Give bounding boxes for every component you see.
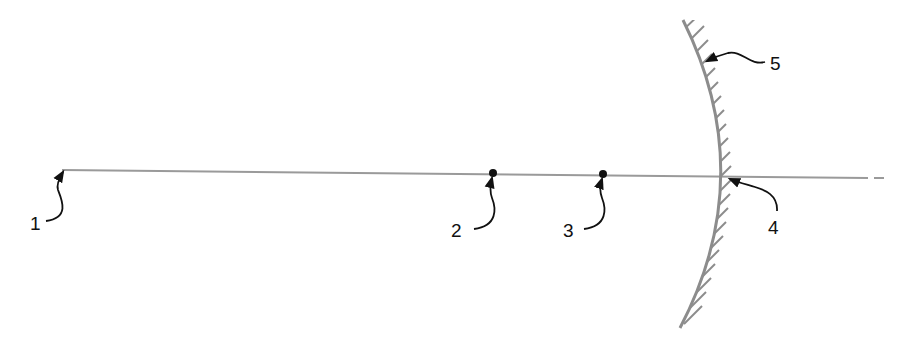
leader-arrow-4 xyxy=(730,179,777,211)
label-3: 3 xyxy=(563,220,574,241)
optics-diagram: 1 2 3 4 5 xyxy=(0,0,922,346)
optical-axis xyxy=(62,170,884,178)
point-3 xyxy=(599,170,607,178)
concave-mirror xyxy=(680,20,721,328)
label-4: 4 xyxy=(768,217,779,238)
leader-arrow-2 xyxy=(474,178,494,229)
label-2: 2 xyxy=(451,220,462,241)
label-1: 1 xyxy=(30,213,41,234)
leader-arrow-5 xyxy=(707,53,765,63)
leader-arrow-1 xyxy=(46,172,63,221)
leader-arrow-3 xyxy=(584,179,604,229)
label-5: 5 xyxy=(770,53,781,74)
point-2 xyxy=(489,169,497,177)
